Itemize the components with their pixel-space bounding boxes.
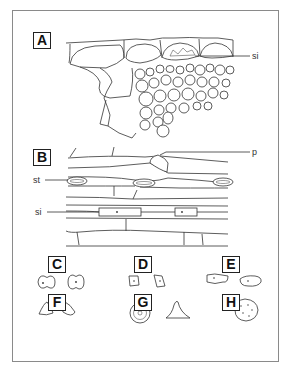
large-epidermal-cell <box>70 45 124 68</box>
panel-label-e: E <box>222 256 240 273</box>
panel-label-d: D <box>134 256 152 273</box>
panel-b-surface <box>45 147 250 246</box>
ground-tissue-outline <box>80 67 136 138</box>
prickle <box>166 301 190 318</box>
silica-cell-2 <box>175 208 197 216</box>
callout-si-a: si <box>252 51 259 61</box>
p-leader <box>160 152 250 155</box>
prickle-p <box>150 155 168 172</box>
panel-a-section <box>66 38 250 139</box>
panel-label-g: G <box>134 294 152 311</box>
panel-c-cells <box>38 275 84 289</box>
panel-label-c: C <box>48 256 66 273</box>
panel-label-b: B <box>33 149 51 166</box>
panel-label-f: F <box>48 294 66 311</box>
silica-cell-1 <box>99 208 141 216</box>
callout-p: p <box>252 147 257 157</box>
parenchyma-cells <box>135 64 234 137</box>
bulliform-cell-2 <box>162 43 199 60</box>
panel-label-a: A <box>33 32 51 49</box>
panel-e-cells <box>207 274 261 286</box>
figure-drawing <box>0 0 292 376</box>
panel-label-h: H <box>222 294 240 311</box>
callout-st: st <box>33 175 40 185</box>
callout-si-b: si <box>35 207 42 217</box>
panel-d-cells <box>129 275 165 287</box>
bulliform-cell-1 <box>126 44 161 63</box>
